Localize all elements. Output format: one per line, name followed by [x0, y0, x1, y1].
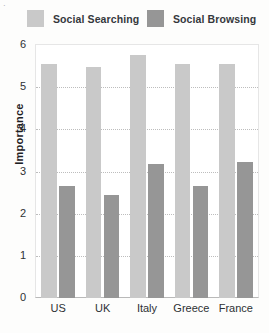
bar-group	[219, 45, 253, 298]
bar-chart: · Social Searching Social Browsing Impor…	[0, 0, 269, 333]
bar-group	[175, 45, 209, 298]
bar-italy-social-browsing	[148, 164, 164, 299]
legend-item-social-browsing: Social Browsing	[147, 10, 256, 27]
y-axis-ticks: 0123456	[0, 44, 31, 298]
x-tick-label: Greece	[169, 302, 213, 314]
legend-item-social-searching: Social Searching	[27, 10, 139, 27]
y-tick-label: 4	[20, 122, 26, 134]
bar-uk-social-searching	[86, 67, 102, 298]
bar-italy-social-searching	[130, 55, 146, 298]
y-tick-label: 0	[20, 291, 26, 303]
legend-swatch-social-searching	[27, 10, 44, 27]
y-tick-label: 2	[20, 207, 26, 219]
bar-france-social-browsing	[237, 162, 253, 298]
bars-layer	[36, 45, 258, 298]
bar-us-social-browsing	[59, 186, 75, 298]
x-axis-ticks: USUKItalyGreeceFrance	[36, 302, 258, 322]
y-tick-label: 1	[20, 249, 26, 261]
x-tick-label: Italy	[125, 302, 169, 314]
bar-greece-social-searching	[175, 64, 191, 298]
x-tick-label: US	[36, 302, 80, 314]
legend-swatch-social-browsing	[147, 10, 164, 27]
x-tick-label: UK	[80, 302, 124, 314]
legend-label-social-searching: Social Searching	[53, 13, 139, 25]
y-tick-label: 6	[20, 38, 26, 50]
y-tick-label: 5	[20, 80, 26, 92]
bar-uk-social-browsing	[104, 195, 120, 298]
scan-artifact: ·	[3, 2, 7, 9]
legend-label-social-browsing: Social Browsing	[173, 13, 256, 25]
x-tick-label: France	[214, 302, 258, 314]
bar-group	[41, 45, 75, 298]
chart-legend: Social Searching Social Browsing	[0, 10, 269, 34]
bar-france-social-searching	[219, 64, 235, 298]
bar-group	[86, 45, 120, 298]
y-tick-label: 3	[20, 165, 26, 177]
bar-greece-social-browsing	[193, 186, 209, 298]
bar-group	[130, 45, 164, 298]
bar-us-social-searching	[41, 64, 57, 298]
